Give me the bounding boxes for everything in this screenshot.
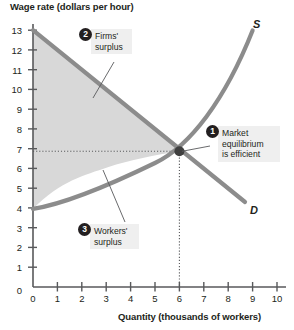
callout-firms-line1: Firms' xyxy=(95,31,129,42)
x-tick-2: 2 xyxy=(74,293,90,304)
y-tick-6: 6 xyxy=(6,163,22,174)
x-tick-7: 7 xyxy=(196,293,212,304)
y-tick-8: 8 xyxy=(6,124,22,135)
x-tick-4: 4 xyxy=(123,293,139,304)
y-axis-title: Wage rate (dollars per hour) xyxy=(10,1,134,12)
callout-workers-line2: surplus xyxy=(94,237,136,248)
y-tick-10: 10 xyxy=(6,84,22,95)
y-tick-11: 11 xyxy=(6,65,22,76)
callout-firms-line2: surplus xyxy=(95,42,129,53)
supply-curve-label: S xyxy=(253,18,260,30)
supply-demand-chart xyxy=(0,0,294,330)
y-tick-1: 1 xyxy=(6,262,22,273)
y-tick-9: 9 xyxy=(6,104,22,115)
callout-equilibrium-line2: equilibrium xyxy=(222,139,277,150)
demand-curve-label: D xyxy=(250,204,258,216)
callout-workers-line1: Workers' xyxy=(94,226,136,237)
y-tick-4: 4 xyxy=(6,203,22,214)
callout-workers-surplus: Workers' surplus xyxy=(90,224,139,249)
x-tick-6: 6 xyxy=(171,293,187,304)
x-tick-0: 0 xyxy=(25,293,41,304)
x-tick-10: 10 xyxy=(269,293,285,304)
callout-firms-surplus: Firms' surplus xyxy=(91,29,132,54)
y-tick-2: 2 xyxy=(6,242,22,253)
y-tick-0: 0 xyxy=(6,285,22,296)
x-tick-8: 8 xyxy=(220,293,236,304)
x-axis-title: Quantity (thousands of workers) xyxy=(118,311,261,322)
equilibrium-leader-line xyxy=(182,146,210,151)
y-tick-13: 13 xyxy=(6,25,22,36)
callout-equilibrium-line3: is efficient xyxy=(222,149,277,160)
y-tick-3: 3 xyxy=(6,223,22,234)
x-tick-1: 1 xyxy=(49,293,65,304)
x-tick-9: 9 xyxy=(245,293,261,304)
y-tick-5: 5 xyxy=(6,183,22,194)
callout-market-equilibrium: Market equilibrium is efficient xyxy=(218,126,280,162)
x-tick-5: 5 xyxy=(147,293,163,304)
y-tick-7: 7 xyxy=(6,144,22,155)
callout-badge-2: 2 xyxy=(79,28,92,41)
callout-badge-1: 1 xyxy=(206,125,219,138)
x-tick-3: 3 xyxy=(98,293,114,304)
callout-badge-3: 3 xyxy=(78,223,91,236)
callout-equilibrium-line1: Market xyxy=(222,128,277,139)
y-tick-12: 12 xyxy=(6,45,22,56)
